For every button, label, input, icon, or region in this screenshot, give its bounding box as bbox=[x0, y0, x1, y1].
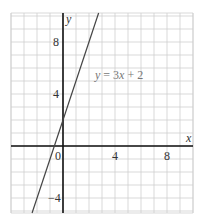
x-tick-4: 4 bbox=[112, 149, 118, 163]
grid-lines bbox=[11, 13, 193, 213]
chart: y x 0 4 8 8 4 −4 y = 3x + 2 bbox=[0, 0, 200, 223]
origin-label: 0 bbox=[55, 149, 61, 163]
equation-label: y = 3x + 2 bbox=[94, 68, 143, 82]
equation-end: + 2 bbox=[124, 68, 143, 82]
equation-mid: = 3 bbox=[100, 68, 119, 82]
x-tick-8: 8 bbox=[164, 149, 170, 163]
y-tick-neg4: −4 bbox=[48, 191, 61, 205]
x-axis-label: x bbox=[185, 131, 192, 145]
y-tick-4: 4 bbox=[53, 87, 59, 101]
y-axis-label: y bbox=[65, 12, 72, 26]
y-tick-8: 8 bbox=[53, 35, 59, 49]
